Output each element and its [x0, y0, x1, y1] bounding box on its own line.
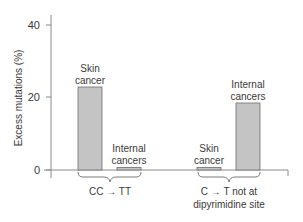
bar-ct-internal: [236, 103, 260, 170]
bar-label-ct-skin-2: cancer: [194, 155, 225, 166]
y-tick-label-0: 0: [34, 164, 40, 176]
bar-label-cctt-internal-2: cancers: [111, 155, 146, 166]
bar-label-cctt-skin-1: Skin: [80, 63, 99, 74]
bar-label-ct-internal-2: cancers: [230, 91, 265, 102]
bar-chart: 0 20 40 Excess mutations (%) Skin cancer…: [0, 0, 303, 222]
y-tick-label-20: 20: [28, 91, 40, 103]
y-axis-label: Excess mutations (%): [13, 50, 24, 147]
bar-ct-skin: [197, 168, 221, 171]
group-brace-cctt: [78, 172, 141, 182]
group-label-ct-2: dipyrimidine site: [193, 199, 265, 210]
group-label-cctt: CC → TT: [89, 186, 131, 197]
bar-cctt-skin: [78, 87, 102, 170]
chart-canvas: 0 20 40 Excess mutations (%) Skin cancer…: [0, 0, 303, 222]
bar-label-cctt-skin-2: cancer: [75, 75, 106, 86]
group-label-ct-1: C → T not at: [201, 186, 258, 197]
group-brace-ct: [198, 172, 260, 182]
bar-label-ct-internal-1: Internal: [231, 79, 264, 90]
y-tick-label-40: 40: [28, 19, 40, 31]
bar-label-cctt-internal-1: Internal: [112, 143, 145, 154]
bar-cctt-internal: [117, 168, 141, 171]
bar-label-ct-skin-1: Skin: [199, 143, 218, 154]
